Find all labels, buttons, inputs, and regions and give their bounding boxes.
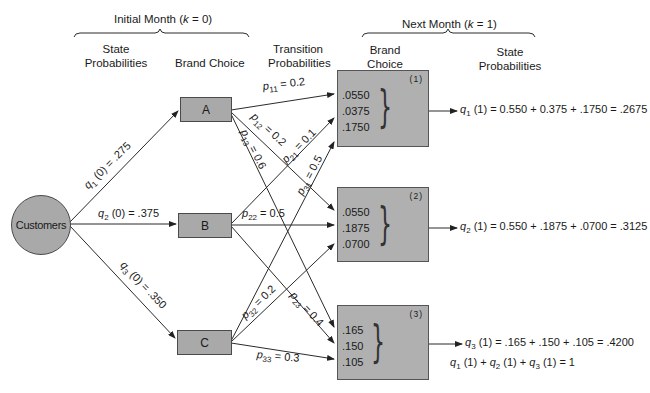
right-brace-icon: } xyxy=(371,320,385,364)
brand-node-a: A xyxy=(180,97,232,122)
state-index: (1) xyxy=(410,74,423,84)
state-probabilities-header: StateProbabilities xyxy=(76,42,156,70)
right-brace-icon: } xyxy=(378,202,392,246)
brand-label: B xyxy=(201,219,209,233)
brand-node-b: B xyxy=(178,213,232,238)
state-values: .165.150.105 xyxy=(342,322,363,370)
state-index: (2) xyxy=(410,191,423,201)
initial-prob-q2: q2 (0) = .375 xyxy=(98,207,159,222)
next-state-box-1: (1) .0550.0375.1750 } xyxy=(337,70,429,147)
customers-label: Customers xyxy=(16,219,66,231)
brand-label: A xyxy=(202,103,210,117)
brand-label: C xyxy=(200,336,209,350)
next-brand-choice-header: BrandChoice xyxy=(360,43,410,71)
result-q1: q1 (1) = 0.550 + 0.375 + .1750 = .2675 xyxy=(460,103,647,118)
state-index: (3) xyxy=(410,309,423,319)
state-values: .0550.0375.1750 xyxy=(342,87,370,135)
next-month-header: Next Month (k = 1) xyxy=(402,17,497,31)
next-state-probabilities-header: StateProbabilities xyxy=(470,45,550,73)
right-brace-icon: } xyxy=(378,85,392,129)
transition-p22: p22 = 0.5 xyxy=(242,207,285,222)
customers-node: Customers xyxy=(11,195,71,255)
result-q2: q2 (1) = 0.550 + .1875 + .0700 = .3125 xyxy=(460,220,647,235)
next-state-box-3: (3) .165.150.105 } xyxy=(337,305,429,380)
brand-choice-header: Brand Choice xyxy=(175,56,245,70)
initial-month-header: Initial Month (k = 0) xyxy=(114,12,212,26)
sum-equation: q1 (1) + q2 (1) + q3 (1) = 1 xyxy=(450,356,575,371)
next-state-box-2: (2) .0550.1875.0700 } xyxy=(337,187,429,262)
transition-probabilities-header: TransitionProbabilities xyxy=(268,42,328,70)
state-values: .0550.1875.0700 xyxy=(342,204,370,252)
result-q3: q3 (1) = .165 + .150 + .105 = .4200 xyxy=(465,336,634,351)
brand-node-c: C xyxy=(177,330,232,355)
